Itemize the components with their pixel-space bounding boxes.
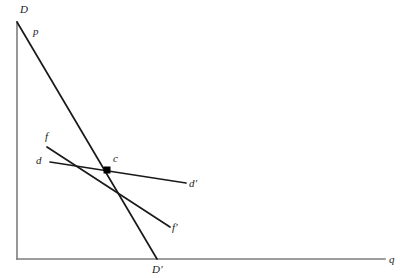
label-D-prime: D′ xyxy=(152,264,163,275)
label-f-prime: f′ xyxy=(172,222,178,233)
curve-ffprime xyxy=(47,147,170,227)
label-p-demand-curve: p xyxy=(33,26,39,37)
label-f: f xyxy=(45,131,48,142)
curve-ddprime xyxy=(50,162,186,183)
label-d-prime: d′ xyxy=(189,178,197,189)
x-axis-label: q xyxy=(389,254,395,265)
diagram-canvas xyxy=(0,0,400,278)
label-c-point: c xyxy=(113,153,118,164)
economics-diagram-figure: D q p D′ f f′ d d′ c xyxy=(0,0,400,278)
y-axis-label: D xyxy=(20,4,28,15)
demand-curve-DDprime xyxy=(17,22,157,259)
label-d: d xyxy=(36,155,42,166)
equilibrium-point-c xyxy=(104,167,111,174)
